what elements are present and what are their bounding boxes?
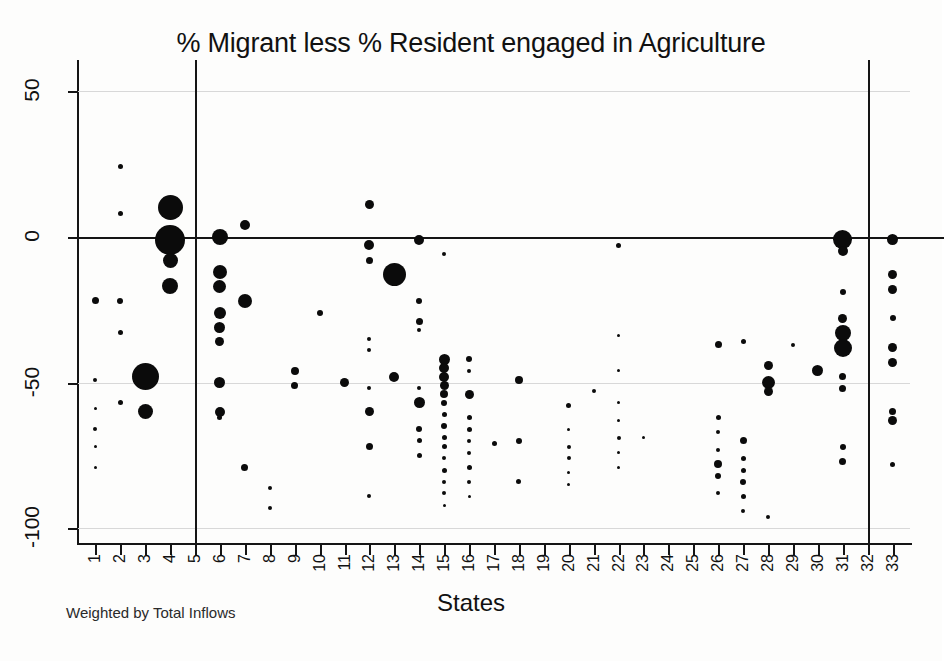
scatter-point — [440, 381, 449, 390]
x-axis-tick-text: 18 — [510, 554, 528, 580]
x-axis-tick-text: 10 — [311, 554, 329, 580]
scatter-point — [567, 428, 570, 431]
scatter-point — [416, 318, 423, 325]
reference-vline-32 — [868, 60, 870, 543]
scatter-point — [442, 412, 447, 417]
scatter-point — [214, 377, 225, 388]
x-axis-tick-label: 29 — [780, 556, 806, 586]
scatter-point — [840, 444, 846, 450]
y-axis-tick-label: 50 — [2, 78, 62, 104]
scatter-point — [389, 372, 399, 382]
scatter-point — [212, 229, 228, 245]
x-axis-tick-text: 6 — [211, 554, 229, 580]
reference-vline-5 — [195, 60, 197, 543]
scatter-point — [888, 358, 897, 367]
x-axis-tick-text: 21 — [585, 554, 603, 580]
scatter-point — [291, 382, 298, 389]
x-axis-tick-label: 9 — [282, 556, 308, 586]
scatter-point — [367, 494, 371, 498]
scatter-point — [443, 504, 446, 507]
scatter-point — [367, 337, 371, 341]
x-axis-tick-label: 24 — [655, 556, 681, 586]
scatter-point — [467, 415, 472, 420]
plot-area — [78, 85, 910, 543]
scatter-point — [592, 389, 596, 393]
scatter-point — [217, 415, 222, 420]
scatter-point — [417, 328, 421, 332]
zero-reference-line — [78, 237, 944, 239]
x-axis-tick-text: 11 — [336, 554, 354, 580]
scatter-point — [839, 458, 846, 465]
y-axis-tick — [68, 383, 78, 385]
scatter-point — [888, 416, 897, 425]
scatter-point — [617, 369, 620, 372]
x-axis-tick-label: 26 — [705, 556, 731, 586]
x-axis-tick-label: 8 — [257, 556, 283, 586]
x-axis-tick-label: 1 — [82, 556, 108, 586]
x-axis-tick-text: 23 — [634, 554, 652, 580]
scatter-point — [238, 294, 252, 308]
x-axis-tick-label: 4 — [157, 556, 183, 586]
y-axis-tick — [68, 528, 78, 530]
scatter-point — [241, 464, 248, 471]
scatter-point — [567, 445, 571, 449]
x-axis-tick-label: 5 — [182, 556, 208, 586]
scatter-point — [340, 378, 349, 387]
scatter-point — [890, 315, 896, 321]
scatter-point — [291, 367, 299, 375]
y-axis-tick-label: -50 — [2, 370, 62, 396]
gridline-y — [78, 383, 910, 384]
scatter-point — [118, 211, 123, 216]
x-axis-tick-text: 1 — [86, 554, 104, 580]
y-axis-labels: 500-50-100 — [0, 0, 66, 661]
x-axis-tick-label: 31 — [830, 556, 856, 586]
x-axis-tick-label: 22 — [606, 556, 632, 586]
scatter-point — [414, 397, 425, 408]
scatter-point — [740, 479, 746, 485]
x-axis-tick-text: 17 — [485, 554, 503, 580]
x-axis-tick-text: 5 — [186, 554, 204, 580]
scatter-point — [442, 491, 446, 495]
x-axis-tick-text: 19 — [535, 554, 553, 580]
scatter-point — [268, 506, 272, 510]
scatter-point — [467, 451, 471, 455]
scatter-point — [467, 480, 471, 484]
x-axis-tick-text: 29 — [784, 554, 802, 580]
scatter-point — [162, 278, 178, 294]
x-axis-tick-text: 14 — [410, 554, 428, 580]
scatter-point — [791, 343, 795, 347]
scatter-point — [764, 387, 773, 396]
x-axis-tick-label: 2 — [107, 556, 133, 586]
scatter-point — [467, 439, 471, 443]
scatter-point — [417, 386, 421, 390]
scatter-point — [716, 448, 720, 452]
scatter-point — [441, 400, 447, 406]
x-axis-tick-label: 27 — [730, 556, 756, 586]
scatter-point — [716, 430, 720, 434]
scatter-point — [887, 234, 898, 245]
scatter-point — [416, 298, 422, 304]
scatter-point — [888, 285, 897, 294]
scatter-point — [442, 456, 446, 460]
x-axis-tick-text: 3 — [136, 554, 154, 580]
x-axis-tick-label: 6 — [207, 556, 233, 586]
scatter-point — [890, 462, 895, 467]
scatter-point — [617, 419, 620, 422]
scatter-point — [764, 361, 773, 370]
scatter-point — [516, 479, 521, 484]
scatter-point — [158, 195, 183, 220]
scatter-point — [94, 466, 97, 469]
chart-title: % Migrant less % Resident engaged in Agr… — [0, 28, 942, 59]
x-axis-tick-label: 20 — [556, 556, 582, 586]
scatter-point — [118, 330, 123, 335]
x-axis-tick-label: 28 — [755, 556, 781, 586]
scatter-point — [741, 494, 746, 499]
scatter-point — [617, 451, 620, 454]
x-axis-tick-text: 28 — [759, 554, 777, 580]
scatter-point — [567, 483, 570, 486]
x-axis-tick-text: 24 — [659, 554, 677, 580]
scatter-point — [567, 471, 570, 474]
x-axis-tick-text: 8 — [261, 554, 279, 580]
scatter-point — [839, 373, 846, 380]
scatter-point — [516, 438, 522, 444]
